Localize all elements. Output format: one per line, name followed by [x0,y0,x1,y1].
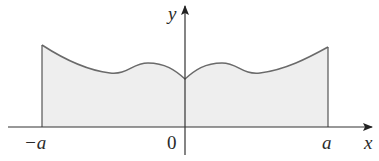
y-axis-label: y [166,3,177,24]
tick-label-a: a [322,132,332,153]
x-axis-label: x [363,132,373,153]
even-function-diagram: y x −a 0 a [0,0,379,161]
tick-label-neg-a: −a [24,132,46,153]
tick-label-origin: 0 [167,132,177,153]
